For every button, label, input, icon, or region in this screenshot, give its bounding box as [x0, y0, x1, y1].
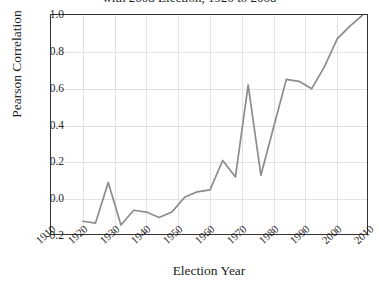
y-axis-tick-label: 0.2 [20, 156, 64, 167]
y-axis-tick-label: 0.6 [20, 83, 64, 94]
data-series-line [83, 15, 363, 225]
plot-area [50, 14, 368, 235]
chart-container: with 2008 Election, 1920 to 2008 Pearson… [0, 0, 379, 287]
chart-title: with 2008 Election, 1920 to 2008 [0, 0, 379, 5]
y-axis-tick-label: 0.8 [20, 46, 64, 57]
y-axis-tick-label: 0.4 [20, 120, 64, 131]
data-line-chart [51, 15, 369, 236]
y-axis-tick-label: 0.0 [20, 193, 64, 204]
y-axis-tick-label: 1.0 [20, 9, 64, 20]
x-axis-title: Election Year [50, 263, 368, 279]
